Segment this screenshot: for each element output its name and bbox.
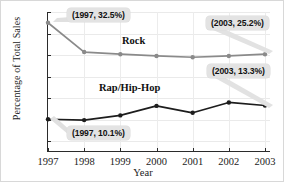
series-label-rock: Rock (122, 35, 145, 46)
data-point (118, 113, 122, 117)
x-tick-label: 1998 (64, 156, 104, 167)
y-axis-title: Percentage of Total Sales (11, 4, 22, 134)
x-tick-label: 1999 (100, 156, 140, 167)
callout-rap-2003: (2003, 13.3%) (207, 64, 270, 78)
data-point (227, 100, 231, 104)
callout-rock-1997: (1997, 32.5%) (67, 8, 130, 22)
x-tick-label: 2000 (137, 156, 177, 167)
line-chart: Percentage of Total Sales 5%10%15%20%25%… (0, 0, 284, 182)
data-point (190, 111, 194, 115)
callout-rap-1997: (1997, 10.1%) (67, 126, 130, 140)
series-label-rap: Rap/Hip-Hop (99, 82, 160, 93)
x-tick-label: 2003 (245, 156, 284, 167)
data-point (263, 103, 267, 107)
data-point (46, 21, 50, 25)
data-point (263, 52, 267, 56)
data-point (154, 104, 158, 108)
x-tick-label: 2001 (173, 156, 213, 167)
data-point (190, 55, 194, 59)
data-point (82, 118, 86, 122)
data-point (46, 117, 50, 121)
x-tick-label: 2002 (209, 156, 249, 167)
x-axis-title: Year (1, 167, 284, 178)
data-point (118, 52, 122, 56)
x-tick-label: 1997 (28, 156, 68, 167)
data-point (82, 50, 86, 54)
data-point (227, 54, 231, 58)
callout-rock-2003: (2003, 25.2%) (206, 16, 269, 30)
data-point (154, 54, 158, 58)
